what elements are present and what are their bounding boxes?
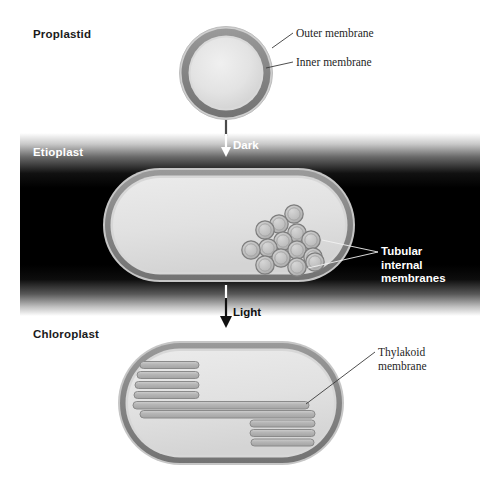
diagram-canvas: Proplastid Etioplast Chloroplast Dark Li… [0, 0, 480, 493]
arrow-head-light-icon [220, 316, 232, 328]
leader-line-outer-membrane [272, 33, 293, 48]
arrow-head-dark-icon [221, 147, 231, 157]
leader-line-inner-membrane [266, 62, 293, 68]
annotation-layer [0, 0, 480, 493]
leader-line-thylakoid [306, 352, 375, 404]
leader-line-tubular-upper [322, 240, 378, 252]
leader-line-tubular-lower [308, 252, 378, 268]
